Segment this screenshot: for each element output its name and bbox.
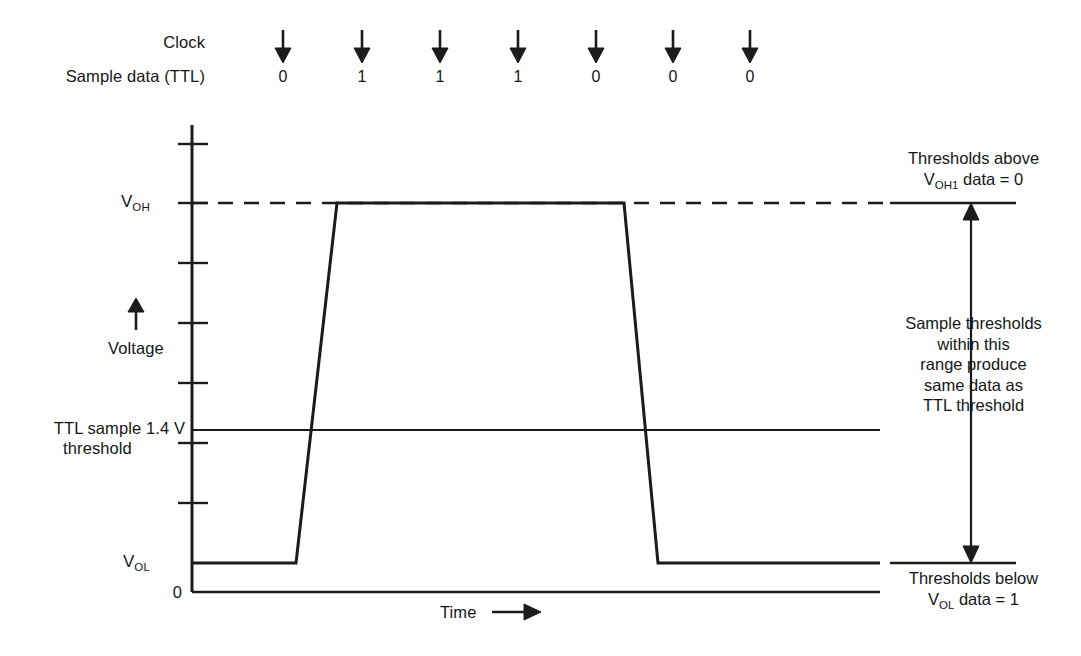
clock-bit-5: 0	[586, 68, 606, 86]
clock-arrow-6	[665, 30, 681, 63]
voltage-axis-arrow	[128, 298, 144, 330]
vol-data-symbol: V	[928, 590, 939, 608]
clock-arrow-4	[510, 30, 526, 63]
clock-bit-1: 0	[273, 68, 293, 86]
right-note-middle-line5: TTL threshold	[886, 395, 1061, 416]
voh-axis-label: VOH	[121, 192, 150, 212]
voh1-data-eq: data = 0	[958, 170, 1023, 188]
vol-axis-label: VOL	[123, 552, 150, 572]
time-axis-arrow	[492, 604, 541, 620]
signal-waveform	[192, 203, 880, 563]
right-note-middle: Sample thresholds within this range prod…	[886, 313, 1061, 416]
right-note-middle-line2: within this	[886, 334, 1061, 355]
right-note-bottom-line2: VOL data = 1	[886, 589, 1061, 612]
voh-subscript: OH	[132, 201, 150, 213]
time-axis-label: Time	[440, 602, 476, 622]
clock-arrow-3	[432, 30, 448, 63]
right-note-top-line2: VOH1 data = 0	[886, 169, 1061, 192]
voh1-subscript: OH1	[935, 179, 959, 191]
right-note-bottom: Thresholds below VOL data = 1	[886, 568, 1061, 611]
clock-bit-6: 0	[663, 68, 683, 86]
right-note-bottom-line1: Thresholds below	[886, 568, 1061, 589]
sample-data-label: Sample data (TTL)	[10, 66, 205, 86]
vol-data-eq: data = 1	[954, 590, 1019, 608]
voh1-sub-oh: OH	[935, 179, 952, 191]
right-note-middle-line4: same data as	[886, 375, 1061, 396]
figure-canvas: Clock Sample data (TTL) 0 1 1 1 0 0 0 VO…	[0, 0, 1081, 656]
clock-bit-7: 0	[740, 68, 760, 86]
clock-bit-2: 1	[352, 68, 372, 86]
right-note-top-line1: Thresholds above	[886, 148, 1061, 169]
voh1-sub-one: 1	[952, 179, 958, 191]
clock-bit-4: 1	[508, 68, 528, 86]
ttl-threshold-label-line1: TTL sample 1.4 V	[10, 418, 185, 438]
voh1-symbol: V	[924, 170, 935, 188]
clock-arrow-2	[354, 30, 370, 63]
right-note-middle-line1: Sample thresholds	[886, 313, 1061, 334]
vol-symbol: V	[123, 552, 134, 571]
clock-label: Clock	[40, 32, 205, 52]
ttl-threshold-label-line2: threshold	[10, 438, 185, 458]
right-note-middle-line3: range produce	[886, 354, 1061, 375]
voltage-axis-label: Voltage	[86, 338, 186, 358]
zero-axis-label: 0	[140, 582, 182, 602]
clock-bit-3: 1	[430, 68, 450, 86]
clock-arrows-group	[275, 30, 758, 63]
right-note-top: Thresholds above VOH1 data = 0	[886, 148, 1061, 191]
vol-data-subscript: OL	[939, 599, 954, 611]
voh-symbol: V	[121, 192, 132, 211]
vol-subscript: OL	[134, 561, 150, 573]
clock-arrow-7	[742, 30, 758, 63]
clock-arrow-5	[588, 30, 604, 63]
clock-arrow-1	[275, 30, 291, 63]
